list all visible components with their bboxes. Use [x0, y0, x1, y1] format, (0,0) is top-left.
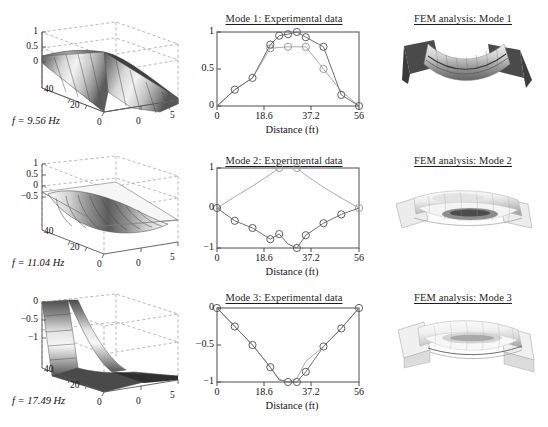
modeshape-xtick-mode-3-1: 18.6: [248, 386, 280, 397]
surface-ztick-mode-3-1: −0.5: [4, 314, 38, 324]
surface-ytick-mode-3-5: 5: [170, 390, 175, 400]
modeshape-ytick-mode-1-1: 0.5: [190, 62, 214, 73]
modeshape-plot-mode-2: Mode 2: Experimental data: [190, 142, 378, 284]
modeshape-ytick-mode-3-1: −0.5: [184, 338, 214, 349]
frequency-label-mode-2: f = 11.04 Hz: [12, 257, 64, 268]
modeshape-plot-mode-3: Mode 3: Experimental data: [190, 284, 378, 426]
fem-panel-mode-3: FEM analysis: Mode 3: [378, 284, 548, 426]
surface-ztick-mode-3-2: −1: [4, 332, 38, 342]
surface-ztick-mode-2-3: −0.5: [4, 191, 38, 201]
surface-ztick-mode-2-1: 0.5: [8, 169, 38, 179]
modeshape-xtick-mode-1-1: 18.6: [248, 110, 280, 121]
surface-xtick-mode-3-20: 20: [70, 380, 80, 390]
surface-ztick-mode-3-0: 0: [8, 296, 38, 306]
surface-plot-mode-3: 0 −0.5 −1 40 20 0 0 5 f = 17.49 Hz: [8, 284, 190, 426]
surface-xtick-mode-3-40: 40: [44, 364, 54, 374]
modeshape-xtick-mode-1-0: 0: [205, 110, 229, 121]
surface-ztick-mode-2-0: 1: [8, 158, 38, 168]
fem-rendering-mode-2: [388, 172, 540, 248]
modeshape-ytick-mode-3-0: 0: [190, 301, 214, 312]
modeshape-xtick-mode-3-0: 0: [205, 386, 229, 397]
modeshape-xtick-mode-2-0: 0: [205, 252, 229, 263]
surface-xtick-mode-1-20: 20: [70, 100, 80, 110]
modeshape-xtick-mode-1-2: 37.2: [295, 110, 327, 121]
fem-rendering-mode-3: [388, 308, 540, 384]
modeshape-plot-mode-1: Mode 1: Experimental data: [190, 0, 378, 142]
modeshape-xlabel-mode-2: Distance (ft): [198, 266, 386, 277]
surface-xtick-mode-1-0: 0: [97, 117, 102, 127]
modeshape-xtick-mode-3-2: 37.2: [295, 386, 327, 397]
mode-row-1: 1 0.5 0 40 20 0 0 5 f = 9.56 Hz Mode 1: …: [0, 0, 548, 142]
modeshape-xtick-mode-1-3: 56: [347, 110, 371, 121]
modal-analysis-figure: 1 0.5 0 40 20 0 0 5 f = 9.56 Hz Mode 1: …: [0, 0, 548, 427]
surface-ztick-mode-1-2: 0: [8, 56, 38, 66]
surface-xtick-mode-1-40: 40: [44, 84, 54, 94]
modeshape-ytick-mode-2-0: 1: [190, 161, 214, 172]
fem-rendering-mode-1: [388, 30, 540, 106]
modeshape-xtick-mode-3-3: 56: [347, 386, 371, 397]
surface-ztick-mode-2-2: 0: [8, 180, 38, 190]
surface-xtick-mode-2-40: 40: [44, 226, 54, 236]
surface-xtick-mode-2-20: 20: [70, 242, 80, 252]
modeshape-xtick-mode-2-1: 18.6: [248, 252, 280, 263]
fem-title-mode-1: FEM analysis: Mode 1: [378, 13, 548, 24]
frequency-label-mode-1: f = 9.56 Hz: [12, 115, 60, 126]
surface-ztick-mode-1-0: 1: [8, 26, 38, 36]
mode-row-2: 1 0.5 0 −0.5 40 20 0 0 5 f = 11.04 Hz Mo…: [0, 142, 548, 284]
surface-ytick-mode-2-5: 5: [170, 252, 175, 262]
modeshape-ytick-mode-2-1: 0: [190, 201, 214, 212]
fem-title-mode-3: FEM analysis: Mode 3: [378, 292, 548, 303]
fem-title-mode-2: FEM analysis: Mode 2: [378, 155, 548, 166]
modeshape-xlabel-mode-1: Distance (ft): [198, 124, 386, 135]
surface-ytick-mode-2-0: 0: [136, 258, 141, 268]
frequency-label-mode-3: f = 17.49 Hz: [12, 395, 65, 406]
surface-panel-mode-3: 0 −0.5 −1 40 20 0 0 5 f = 17.49 Hz: [8, 284, 190, 426]
fem-panel-mode-1: FEM analysis: Mode 1: [378, 0, 548, 142]
modeshape-ytick-mode-1-0: 1: [190, 25, 214, 36]
surface-xtick-mode-3-0: 0: [97, 397, 102, 407]
modeshape-ytick-mode-3-2: −1: [186, 375, 214, 386]
fem-panel-mode-2: FEM analysis: Mode 2: [378, 142, 548, 284]
surface-ztick-mode-1-1: 0.5: [8, 41, 38, 51]
mode-row-3: 0 −0.5 −1 40 20 0 0 5 f = 17.49 Hz Mode …: [0, 284, 548, 426]
surface-ytick-mode-1-0: 0: [136, 116, 141, 126]
surface-ytick-mode-3-0: 0: [136, 396, 141, 406]
modeshape-ytick-mode-1-2: 0: [190, 99, 214, 110]
surface-xtick-mode-2-0: 0: [97, 259, 102, 269]
modeshape-xtick-mode-2-3: 56: [347, 252, 371, 263]
modeshape-ytick-mode-2-2: −1: [186, 241, 214, 252]
modeshape-xtick-mode-2-2: 37.2: [295, 252, 327, 263]
surface-ytick-mode-1-5: 5: [170, 110, 175, 120]
modeshape-xlabel-mode-3: Distance (ft): [198, 400, 386, 411]
